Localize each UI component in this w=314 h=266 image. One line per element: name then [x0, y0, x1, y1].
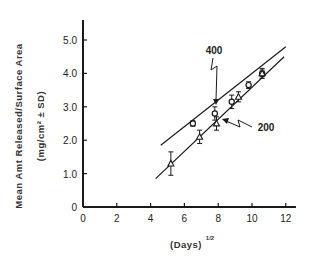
x-tick-label: 10 [246, 213, 258, 224]
x-axis-title: (Days) [170, 239, 202, 250]
y-axis-title: Mean Amt Released/Surface Area [13, 43, 24, 209]
x-axis-exponent: 1/2 [206, 235, 215, 241]
chart-plot: 02468101201.02.03.04.05.0Mean Amt Releas… [0, 0, 314, 266]
arrowhead-200 [222, 118, 229, 124]
data-point-triangle [214, 120, 220, 126]
data-point-circle [212, 111, 217, 116]
data-point-triangle [168, 160, 174, 166]
annotation-label-400: 400 [206, 45, 223, 56]
annotation-arrow-200 [226, 120, 252, 127]
y-tick-label: 1.0 [63, 169, 77, 180]
y-tick-label: 4.0 [63, 68, 77, 79]
x-tick-label: 0 [80, 213, 86, 224]
x-tick-label: 12 [280, 213, 292, 224]
arrowhead-400 [213, 99, 219, 105]
y-tick-label: 0 [71, 202, 77, 213]
y-axis-units: (mg/cm² ± SD) [35, 91, 46, 161]
annotation-label-200: 200 [258, 122, 275, 133]
data-point-circle [246, 82, 251, 87]
data-point-circle [190, 121, 195, 126]
y-tick-label: 5.0 [63, 35, 77, 46]
x-tick-label: 2 [114, 213, 120, 224]
data-point-triangle [235, 94, 241, 100]
annotation-arrow-400 [211, 58, 217, 100]
x-tick-label: 6 [182, 213, 188, 224]
y-tick-label: 3.0 [63, 102, 77, 113]
y-tick-label: 2.0 [63, 135, 77, 146]
x-tick-label: 8 [215, 213, 221, 224]
data-point-circle [229, 99, 234, 104]
x-tick-label: 4 [148, 213, 154, 224]
